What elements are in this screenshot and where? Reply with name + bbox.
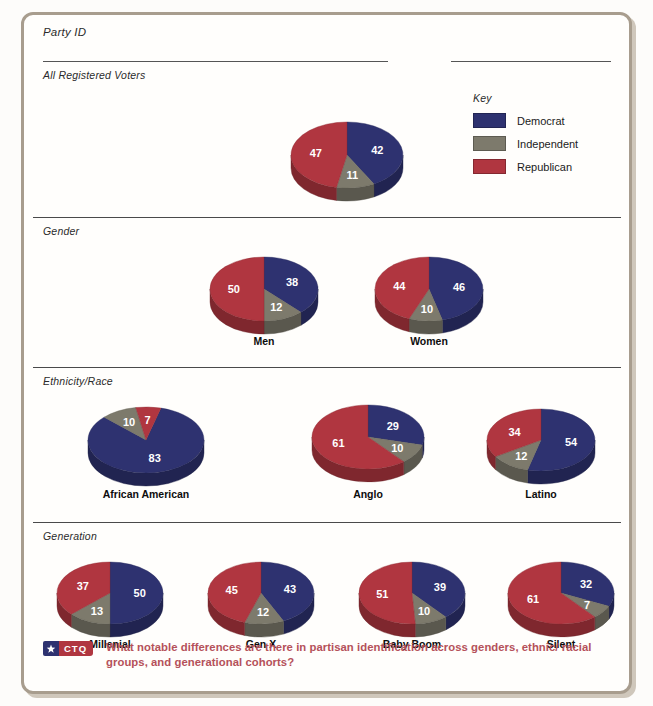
- pie-value-democrat: 83: [149, 452, 161, 464]
- pie-value-republican: 45: [226, 584, 238, 596]
- pie-value-independent: 12: [270, 301, 282, 313]
- pie-value-independent: 11: [347, 169, 359, 181]
- pie-value-republican: 34: [508, 426, 521, 438]
- pie-caption-anglo: Anglo: [288, 488, 448, 500]
- pie-value-independent: 13: [91, 605, 103, 617]
- pie-value-republican: 61: [332, 437, 344, 449]
- pie-value-democrat: 32: [580, 578, 592, 590]
- legend-swatch-republican: [473, 159, 506, 174]
- divider-rule-3: [33, 367, 621, 368]
- pie-value-democrat: 39: [434, 581, 446, 593]
- legend-title: Key: [473, 92, 578, 104]
- pie-value-democrat: 46: [453, 281, 465, 293]
- ctq-question: What notable differences are there in pa…: [106, 640, 613, 669]
- pie-caption-african-american: African American: [66, 488, 226, 500]
- legend-item-democrat: Democrat: [473, 111, 578, 130]
- pie-chart-silent: 32761: [494, 548, 628, 651]
- divider-rule-4: [33, 522, 621, 523]
- legend-item-republican: Republican: [473, 157, 578, 176]
- ctq-tag-label: CTQ: [59, 641, 93, 656]
- pie-value-republican: 50: [228, 283, 240, 295]
- pie-value-republican: 7: [144, 414, 150, 426]
- pie-chart-african-american: 83107: [74, 393, 218, 500]
- figure-inner: Party ID All Registered VotersGenderEthn…: [21, 12, 632, 694]
- pie-value-democrat: 29: [387, 420, 399, 432]
- pie-chart-millenial: 501337: [43, 548, 177, 651]
- divider-rule-1: [451, 61, 611, 62]
- pie-value-democrat: 54: [565, 436, 578, 448]
- pie-value-independent: 10: [418, 605, 430, 617]
- pie-caption-women: Women: [349, 335, 509, 347]
- pie-chart-latino: 541234: [473, 395, 609, 498]
- legend-key: Key DemocratIndependentRepublican: [473, 92, 578, 180]
- pie-chart-all-registered-voters: 421147: [277, 108, 417, 215]
- pie-chart-anglo: 291061: [298, 391, 438, 496]
- pie-chart-gen-x: 431245: [194, 548, 328, 651]
- pie-value-republican: 61: [527, 593, 539, 605]
- legend-label-independent: Independent: [517, 138, 578, 150]
- pie-value-democrat: 38: [286, 276, 298, 288]
- section-label-1: Gender: [43, 225, 79, 237]
- pie-value-democrat: 50: [134, 587, 146, 599]
- section-label-0: All Registered Voters: [43, 69, 145, 81]
- pie-value-independent: 10: [421, 303, 433, 315]
- ctq-badge: CTQ: [43, 641, 93, 656]
- pie-value-independent: 7: [584, 599, 590, 611]
- pie-chart-men: 381250: [196, 243, 332, 348]
- pie-value-democrat: 42: [371, 144, 383, 156]
- pie-chart-women: 461044: [361, 243, 497, 348]
- section-label-3: Generation: [43, 530, 97, 542]
- pie-chart-baby-boom: 391051: [345, 548, 479, 651]
- divider-rule-0: [43, 61, 388, 62]
- page-title: Party ID: [43, 26, 86, 38]
- pie-caption-men: Men: [184, 335, 344, 347]
- pie-value-democrat: 43: [284, 583, 296, 595]
- legend-swatch-democrat: [473, 113, 506, 128]
- figure-page: Party ID All Registered VotersGenderEthn…: [0, 0, 653, 706]
- pie-value-republican: 37: [77, 580, 89, 592]
- pie-value-independent: 10: [123, 416, 135, 428]
- pie-value-independent: 10: [391, 442, 403, 454]
- star-icon: [43, 641, 59, 656]
- ctq-callout: CTQ What notable differences are there i…: [43, 640, 613, 669]
- pie-value-independent: 12: [257, 606, 269, 618]
- section-label-2: Ethnicity/Race: [43, 375, 113, 387]
- legend-label-democrat: Democrat: [517, 115, 565, 127]
- legend-swatch-independent: [473, 136, 506, 151]
- pie-caption-latino: Latino: [461, 488, 621, 500]
- legend-label-republican: Republican: [517, 161, 572, 173]
- pie-value-independent: 12: [515, 450, 527, 462]
- pie-value-republican: 44: [393, 280, 406, 292]
- pie-value-republican: 51: [376, 588, 388, 600]
- pie-value-republican: 47: [310, 147, 322, 159]
- legend-item-independent: Independent: [473, 134, 578, 153]
- divider-rule-2: [33, 217, 621, 218]
